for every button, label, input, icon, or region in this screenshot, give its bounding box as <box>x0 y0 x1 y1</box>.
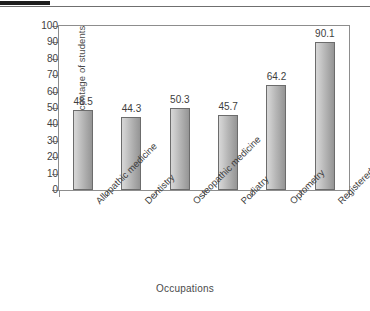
bar <box>73 110 93 190</box>
x-tick-label: Dentistry <box>143 199 150 206</box>
bar <box>266 85 286 190</box>
bar-value-label: 90.1 <box>315 29 334 39</box>
bar-slot: 90.1 <box>301 26 349 190</box>
y-tick-label: 40 <box>24 119 58 129</box>
bar-slot: 48.5 <box>59 26 107 190</box>
bar-slot: 50.3 <box>156 26 204 190</box>
bar-series: 48.544.350.345.764.290.1 <box>59 26 349 190</box>
bar-slot: 64.2 <box>252 26 300 190</box>
y-tick-label: 50 <box>24 103 58 113</box>
x-tick-label: Osteopathic medicine <box>191 199 198 206</box>
bar-value-label: 48.5 <box>73 97 92 107</box>
y-tick-label: 0 <box>24 185 58 195</box>
x-tick-label: Registered nurses <box>336 199 343 206</box>
bar-chart-figure: 1009080706050403020100 Percentage of stu… <box>0 0 370 311</box>
y-tick-label: 10 <box>24 169 58 179</box>
y-tick-label: 60 <box>24 87 58 97</box>
y-tick-label: 100 <box>24 21 58 31</box>
y-tick-label: 80 <box>24 54 58 64</box>
y-tick-label: 70 <box>24 70 58 80</box>
bar-value-label: 44.3 <box>122 104 141 114</box>
x-tick-label: Podiatry <box>239 199 246 206</box>
y-tick-label: 20 <box>24 152 58 162</box>
y-tick-label: 90 <box>24 37 58 47</box>
x-tick-label: Allopathic medicine <box>94 199 101 206</box>
y-axis: 1009080706050403020100 <box>0 25 58 191</box>
y-tick-label: 30 <box>24 136 58 146</box>
x-axis-tick-labels: Allopathic medicineDentistryOsteopathic … <box>58 191 358 271</box>
bar-value-label: 64.2 <box>267 72 286 82</box>
x-axis-title: Occupations <box>0 283 370 294</box>
bar-value-label: 50.3 <box>170 95 189 105</box>
x-tick-label: Optometry <box>288 199 295 206</box>
bar-value-label: 45.7 <box>218 102 237 112</box>
